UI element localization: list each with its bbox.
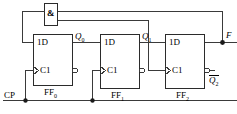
ff1-q-subscript: 1 [149,37,152,43]
ff2-name-label: FF2 [176,91,189,102]
ff2-qbar-output-label: Q2 [209,75,219,87]
ff2-name-subscript: 2 [186,96,189,102]
wire-cp-to-ff0-clock [26,71,34,101]
junction-dot-cp-ff0 [23,98,27,102]
ff1-clock-triangle [101,67,106,75]
ff0-clock-pin-label: C1 [40,66,51,75]
ff2-data-pin-label: 1D [169,38,180,47]
ff0-data-pin-label: 1D [37,38,48,47]
output-f-label: F [226,31,232,40]
ff0-qbar-bubble [73,68,78,73]
ff0-q-subscript: 0 [82,37,85,43]
ff1-name-label: FF1 [111,91,124,102]
and-gate-symbol: & [47,9,55,18]
ff2-qbar-overbar-group: Q2 [209,75,219,87]
ff0-name-label: FF0 [44,88,57,99]
clock-input-cp-label: CP [4,91,15,100]
ff0-name-subscript: 0 [54,93,57,99]
ff1-qbar-bubble [140,68,145,73]
ff1-clock-pin-label: C1 [107,66,118,75]
ff2-name-text: FF [176,90,186,100]
ff1-name-subscript: 1 [121,96,124,102]
ff0-q-output-label: Q0 [75,32,85,43]
ff2-clock-pin-label: C1 [172,66,183,75]
ff0-name-text: FF [44,87,54,97]
circuit-diagram: & 1D C1 FF0 Q0 1D C1 FF1 Q1 1D C1 FF2 Q2… [0,0,237,114]
junction-dot-cp-ff1 [90,98,94,102]
junction-dot-output-f [220,40,225,45]
ff2-qbar-bubble [205,68,210,73]
ff2-qbar-subscript: 2 [216,81,219,87]
ff1-data-pin-label: 1D [104,38,115,47]
ff1-q-output-label: Q1 [142,32,152,43]
ff1-name-text: FF [111,90,121,100]
wire-cp-to-ff1-clock [93,71,101,101]
ff2-clock-triangle [166,67,171,75]
ff0-clock-triangle [34,67,39,75]
